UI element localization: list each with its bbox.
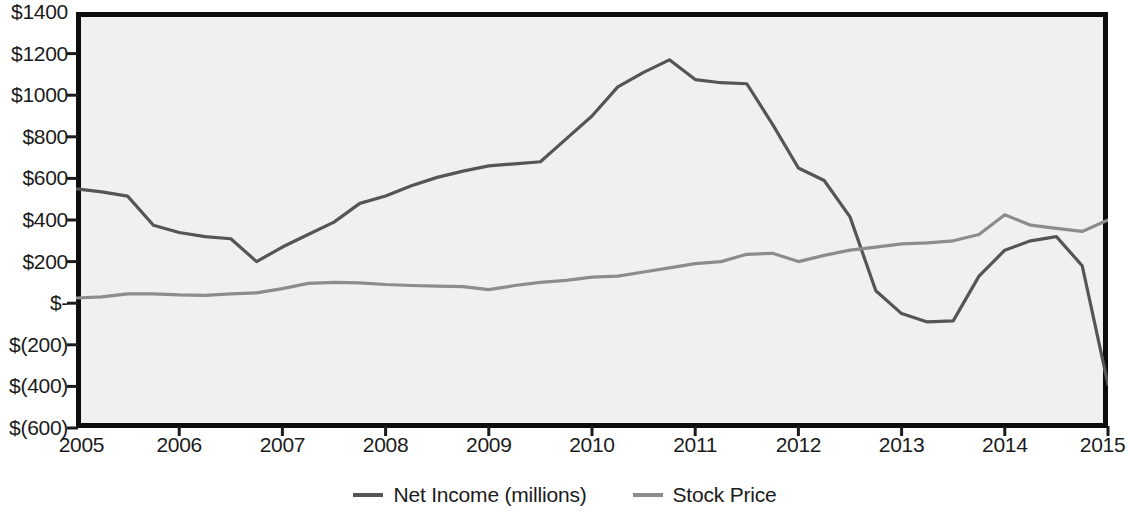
y-axis: $1400$1200$1000$800$600$400$200$-$(200)$… bbox=[0, 0, 68, 440]
legend-color-swatch bbox=[633, 493, 663, 497]
x-axis-tick-label: 2007 bbox=[260, 434, 306, 455]
y-axis-tick-label: $200 bbox=[22, 251, 68, 272]
x-axis-tick-label: 2006 bbox=[156, 434, 202, 455]
series-line bbox=[76, 215, 1108, 298]
x-axis-tick-label: 2015 bbox=[1080, 434, 1126, 455]
y-axis-tick-label: $1400 bbox=[11, 1, 68, 22]
line-chart: CONSIDER THIS COMPANY VALUATIONS $1400$1… bbox=[0, 0, 1130, 528]
legend-item[interactable]: Net Income (millions) bbox=[353, 484, 586, 505]
y-axis-tick-label: $1200 bbox=[11, 43, 68, 64]
y-axis-tick-label: $1000 bbox=[11, 84, 68, 105]
x-axis-tick-label: 2008 bbox=[363, 434, 409, 455]
y-axis-tick-label: $- bbox=[50, 292, 68, 313]
y-axis-tick-label: $400 bbox=[22, 209, 68, 230]
x-axis-tick-label: 2014 bbox=[982, 434, 1028, 455]
legend-item[interactable]: Stock Price bbox=[633, 484, 777, 505]
x-axis-tick-label: 2005 bbox=[59, 434, 105, 455]
y-axis-tick-label: $600 bbox=[22, 167, 68, 188]
series-lines bbox=[76, 12, 1108, 428]
x-axis-tick-label: 2009 bbox=[466, 434, 512, 455]
series-line bbox=[76, 60, 1108, 384]
legend-label: Stock Price bbox=[673, 484, 777, 505]
legend-label: Net Income (millions) bbox=[393, 484, 586, 505]
y-axis-tick-label: $(400) bbox=[9, 375, 68, 396]
x-axis-tick-label: 2012 bbox=[776, 434, 822, 455]
y-axis-tick-label: $(200) bbox=[9, 334, 68, 355]
x-axis-tick-label: 2010 bbox=[569, 434, 615, 455]
x-axis-tick-label: 2013 bbox=[879, 434, 925, 455]
chart-legend: Net Income (millions)Stock Price bbox=[0, 484, 1130, 505]
legend-color-swatch bbox=[353, 493, 383, 497]
y-axis-tick-label: $800 bbox=[22, 126, 68, 147]
x-axis-tick-label: 2011 bbox=[673, 434, 717, 455]
